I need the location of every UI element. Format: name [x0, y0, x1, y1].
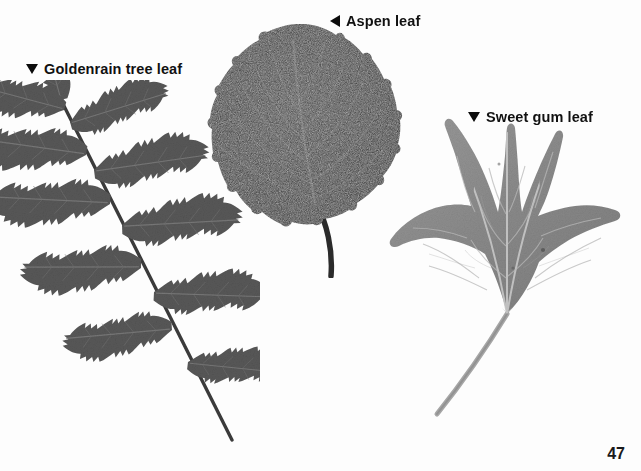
label-sweetgum-text: Sweet gum leaf: [486, 110, 593, 125]
sweet-gum-petiole: [437, 314, 507, 414]
label-goldenrain-text: Goldenrain tree leaf: [44, 62, 182, 77]
sweet-gum-secondary-veins: [413, 152, 601, 290]
sweet-gum-leaf-image: [375, 118, 641, 423]
label-goldenrain-tree-leaf: Goldenrain tree leaf: [26, 62, 182, 77]
goldenrain-rachis: [60, 98, 232, 440]
label-aspen-text: Aspen leaf: [346, 14, 420, 29]
leaf-blemish: [541, 248, 545, 252]
photo-page: Goldenrain tree leaf Aspen leaf Sweet gu…: [0, 0, 641, 471]
triangle-down-icon: [26, 64, 38, 74]
label-aspen-leaf: Aspen leaf: [330, 14, 420, 29]
triangle-left-icon: [330, 15, 340, 27]
aspen-leaf-body: [205, 18, 405, 276]
label-sweet-gum-leaf: Sweet gum leaf: [468, 110, 593, 125]
leaf-blemish: [511, 266, 514, 269]
sweet-gum-leaf-body: [390, 119, 621, 414]
page-number: 47: [607, 445, 625, 463]
goldenrain-tree-leaf-image: [0, 80, 260, 450]
sweet-gum-primary-veins: [395, 130, 618, 314]
goldenrain-leaf-body: [0, 80, 260, 440]
leaf-blemish: [498, 163, 501, 166]
aspen-leaf-image: [205, 18, 405, 278]
triangle-down-icon: [468, 112, 480, 122]
aspen-petiole: [316, 203, 331, 276]
